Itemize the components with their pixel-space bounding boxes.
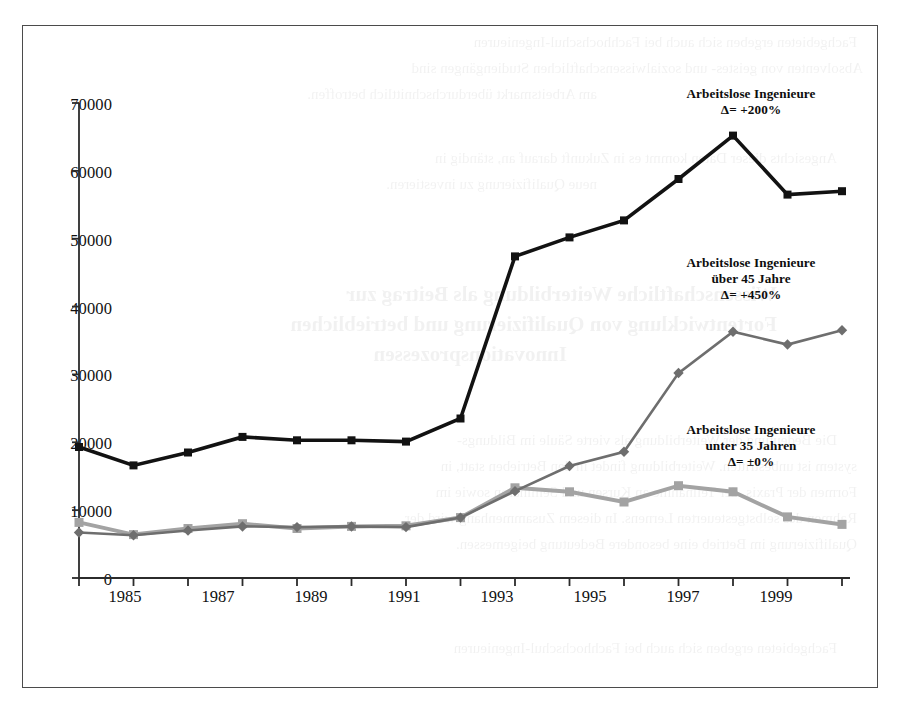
annotation-line-3: Δ= ±0% xyxy=(636,454,866,470)
data-point-marker xyxy=(729,132,737,140)
data-point-marker xyxy=(838,187,846,195)
annotation-line-2: über 45 Jahre xyxy=(636,271,866,287)
data-point-marker xyxy=(184,449,192,457)
data-point-marker xyxy=(674,481,683,490)
data-point-marker xyxy=(566,233,574,241)
data-point-marker xyxy=(564,461,574,471)
series-annotation-gesamt: Arbeitslose Ingenieure Δ= +200% xyxy=(636,86,866,118)
series-annotation-unter35: Arbeitslose Ingenieure unter 35 Jahren Δ… xyxy=(636,422,866,470)
series-annotation-ueber45: Arbeitslose Ingenieure über 45 Jahre Δ= … xyxy=(636,255,866,303)
annotation-line-1: Arbeitslose Ingenieure xyxy=(636,86,866,102)
data-point-marker xyxy=(783,512,792,521)
data-point-marker xyxy=(620,216,628,224)
data-series-layer xyxy=(74,132,847,541)
line-chart: 70000 60000 50000 40000 30000 20000 1000… xyxy=(0,0,897,713)
data-point-marker xyxy=(239,433,247,441)
data-point-marker xyxy=(402,438,410,446)
data-point-marker xyxy=(782,339,792,349)
data-point-marker xyxy=(511,252,519,260)
annotation-line-1: Arbeitslose Ingenieure xyxy=(636,422,866,438)
data-point-marker xyxy=(729,487,738,496)
data-point-marker xyxy=(457,415,465,423)
data-point-marker xyxy=(75,443,83,451)
data-point-marker xyxy=(784,191,792,199)
data-point-marker xyxy=(675,175,683,183)
data-point-marker xyxy=(838,520,847,529)
data-point-marker xyxy=(565,487,574,496)
annotation-line-2: unter 35 Jahren xyxy=(636,438,866,454)
data-point-marker xyxy=(620,498,629,507)
annotation-line-2: Δ= +200% xyxy=(636,102,866,118)
data-point-marker xyxy=(348,436,356,444)
data-point-marker xyxy=(837,325,847,335)
data-point-marker xyxy=(75,518,84,527)
data-point-marker xyxy=(74,527,84,537)
annotation-line-1: Arbeitslose Ingenieure xyxy=(636,255,866,271)
data-point-marker xyxy=(130,461,138,469)
annotation-line-3: Δ= +450% xyxy=(636,287,866,303)
data-point-marker xyxy=(293,436,301,444)
